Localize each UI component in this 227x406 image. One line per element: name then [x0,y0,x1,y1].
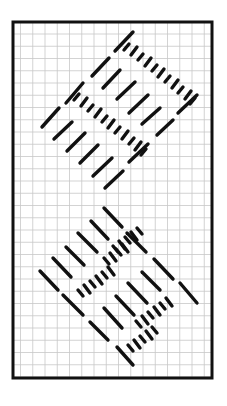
grid [13,22,212,378]
short-stitch [95,109,101,117]
long-stitch [90,322,108,340]
short-stitch [104,258,109,264]
short-stitch [146,331,152,339]
short-stitch [128,345,133,351]
long-stitch [80,145,98,163]
short-stitch [185,91,191,99]
short-stitch [158,69,164,77]
short-stitch [148,312,153,318]
long-stitch [142,272,160,290]
long-stitch [93,158,112,176]
short-stitch [134,340,140,348]
long-stitch [129,95,148,113]
short-stitch [88,105,93,111]
short-stitch [172,80,178,88]
long-stitch [157,120,173,135]
long-stitch [53,258,71,277]
short-stitch [84,285,90,293]
short-stitch [138,54,143,60]
short-stitch [136,321,141,327]
short-stitch [96,276,102,284]
long-stitch [117,82,135,99]
short-stitch [165,76,170,82]
long-stitch [103,70,120,88]
long-stitch [104,308,122,328]
short-stitch [131,47,137,55]
long-stitch [40,271,58,290]
stitch-diagram [0,0,227,406]
chart-frame [13,22,212,378]
short-stitch [108,120,114,128]
long-stitch [142,108,160,124]
short-stitch [140,336,145,342]
short-stitch [152,65,157,71]
short-stitch [178,87,183,93]
long-stitch [66,247,84,265]
long-stitch [105,171,123,188]
long-stitch [180,283,197,303]
short-stitch [124,44,129,50]
long-stitch [42,108,59,127]
short-stitch [135,142,141,150]
upper-stitch-cluster [42,32,197,188]
short-stitch [145,58,151,66]
short-stitch [129,138,134,144]
short-stitch [122,244,128,252]
long-stitch [63,295,83,315]
short-stitch [108,267,114,275]
short-stitch [137,228,142,234]
short-stitch [166,298,172,306]
long-stitch [154,259,173,279]
